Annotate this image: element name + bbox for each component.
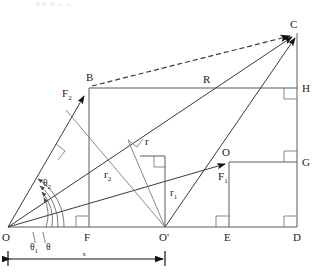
vector-F2-ray [8,96,84,227]
label-radius-r1: r1 [170,186,178,201]
label-point-R: R [203,73,211,85]
angle-arc-inner-a [40,186,58,227]
vector-F1-ray [8,164,225,227]
label-vector-F2: F2 [62,87,72,102]
figure-root: θ θ₁ θ₂ r₁ r₂ [0,0,317,274]
ray-Oprime-upleft [66,110,165,227]
label-point-O-circle: O [222,146,230,158]
label-point-O-prime: O' [159,231,169,243]
right-angle-mark-E [216,216,229,227]
label-point-H: H [302,82,310,94]
right-angle-mark-H [284,88,297,99]
label-vector-F1: F1 [218,170,228,185]
right-angle-mark-D [284,216,297,227]
geometry-diagram: O F O' E D B R H C O G F1 F2 r r1 r2 θ2 … [0,0,317,274]
label-point-O: O [2,231,10,243]
right-angle-mark-G [284,151,297,162]
label-angle-theta2: θ2 [43,178,52,191]
right-angle-mark-F2-foot [56,144,65,160]
right-angle-mark-r1 [154,156,165,167]
label-angle-theta1: θ1 [30,242,39,255]
label-point-B: B [86,71,93,83]
label-point-G: G [302,156,310,168]
angle-leader-theta [43,232,45,243]
label-angle-theta: θ [46,242,51,252]
dashed-B-to-C [92,36,290,86]
label-dimension-x: x [82,250,86,257]
label-radius-r2: r2 [104,168,112,183]
ray-Oprime-to-C [165,38,295,227]
label-point-E: E [224,231,231,243]
clipped-header-text: θ θ₁ θ₂ r₁ r₂ [36,0,73,8]
label-point-D: D [293,231,301,243]
label-point-F: F [84,231,90,243]
right-angle-mark-F [76,216,89,227]
label-radius-r: r [145,135,149,147]
label-point-C: C [290,18,297,30]
